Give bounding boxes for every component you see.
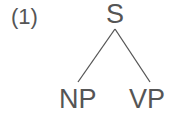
node-np: NP <box>59 86 97 113</box>
node-vp: VP <box>129 86 165 113</box>
edge-s-np <box>78 29 115 82</box>
edge-s-vp <box>115 29 150 82</box>
